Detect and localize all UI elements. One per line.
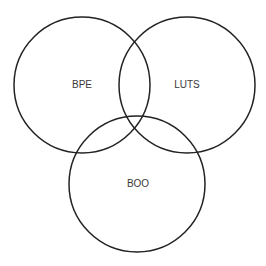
label-bpe: BPE — [72, 79, 92, 90]
set-bpe: BPE — [14, 17, 150, 153]
set-luts: LUTS — [119, 17, 255, 153]
label-luts: LUTS — [174, 79, 200, 90]
label-boo: BOO — [127, 178, 149, 189]
venn-diagram: BPE LUTS BOO — [0, 0, 266, 266]
set-boo: BOO — [69, 116, 205, 252]
